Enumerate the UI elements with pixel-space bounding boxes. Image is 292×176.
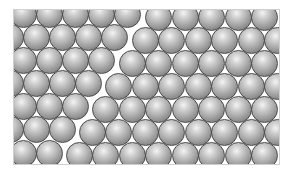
right-grain — [14, 10, 279, 164]
sphere-packing-diagram — [13, 9, 280, 165]
sphere-atom — [251, 142, 278, 166]
sphere-atom — [92, 142, 119, 166]
sphere-atom — [66, 142, 93, 166]
sphere-atom — [198, 142, 225, 166]
sphere-atom — [225, 142, 252, 166]
sphere-atom — [172, 142, 199, 166]
sphere-atom — [145, 142, 172, 166]
sphere-atom — [119, 142, 146, 166]
